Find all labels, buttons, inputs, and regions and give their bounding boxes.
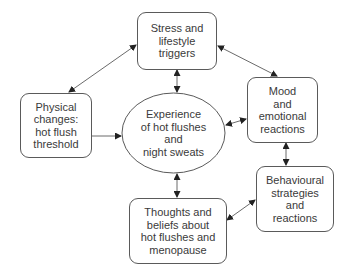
edge-mood-experience	[226, 119, 246, 125]
node-label: Thoughts and beliefs about hot flushes a…	[141, 206, 216, 256]
edge-stress-mood	[218, 46, 277, 76]
node-stress-lifestyle-triggers: Stress and lifestyle triggers	[137, 12, 217, 70]
node-label: Mood and emotional reactions	[259, 85, 307, 135]
node-thoughts-beliefs: Thoughts and beliefs about hot flushes a…	[129, 198, 227, 264]
node-physical-changes: Physical changes: hot flush threshold	[20, 93, 92, 158]
node-mood-emotional-reactions: Mood and emotional reactions	[247, 77, 318, 143]
edge-behavioural-thoughts	[227, 200, 255, 220]
edge-stress-physical	[69, 45, 136, 92]
node-label: Behavioural strategies and reactions	[266, 174, 324, 224]
center-label-text: Experience of hot flushes and night swea…	[141, 108, 206, 158]
node-label: Physical changes: hot flush threshold	[33, 101, 78, 151]
node-behavioural-strategies: Behavioural strategies and reactions	[256, 166, 334, 232]
node-label: Stress and lifestyle triggers	[151, 22, 204, 60]
center-experience-label: Experience of hot flushes and night swea…	[122, 93, 225, 173]
